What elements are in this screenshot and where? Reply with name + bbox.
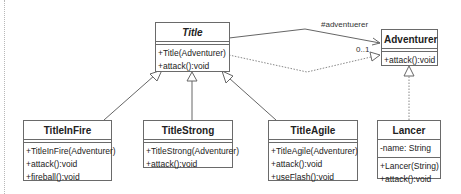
- class-name: Title: [156, 23, 229, 41]
- operation: +TitleAgile(Adventurer): [269, 145, 357, 158]
- association-multiplicity-label: 0..1: [356, 45, 369, 54]
- operation: +TitleInFire(Adventurer): [24, 145, 111, 158]
- realization-line-title: [229, 55, 371, 72]
- operations-section: +Title(Adventurer) +attack():void: [156, 45, 229, 75]
- attributes-section: -name: String: [378, 140, 440, 157]
- operation: +attack():void: [378, 173, 440, 186]
- class-name: TitleAgile: [269, 121, 357, 139]
- association-role-label: #adventuerer: [321, 20, 368, 29]
- operation: +attack():void: [156, 60, 229, 73]
- class-title-in-fire[interactable]: TitleInFire +TitleInFire(Adventurer) +at…: [23, 120, 112, 181]
- operations-section: +TitleStrong(Adventurer) +attack():void: [144, 143, 232, 173]
- class-lancer[interactable]: Lancer -name: String +Lancer(String) +at…: [377, 120, 441, 179]
- operation: +fireball():void: [24, 171, 111, 184]
- operations-section: +TitleInFire(Adventurer) +attack():void …: [24, 143, 111, 186]
- class-title-agile[interactable]: TitleAgile +TitleAgile(Adventurer) +atta…: [268, 120, 358, 181]
- operation: +attack():void: [382, 54, 437, 67]
- operation: +Title(Adventurer): [156, 47, 229, 60]
- attribute: -name: String: [378, 142, 440, 155]
- class-name: Lancer: [378, 121, 440, 139]
- class-adventurer[interactable]: Adventurer +attack():void: [381, 29, 438, 66]
- operation: +attack():void: [24, 158, 111, 171]
- operations-section: +TitleAgile(Adventurer) +attack():void +…: [269, 143, 357, 186]
- operation: +Lancer(String): [378, 160, 440, 173]
- association-line: [229, 29, 380, 43]
- operation: +useFlash():void: [269, 171, 357, 184]
- operations-section: +Lancer(String) +attack():void: [378, 158, 440, 188]
- operation: +attack():void: [269, 158, 357, 171]
- operation: +attack():void: [144, 158, 232, 171]
- class-name: TitleStrong: [144, 121, 232, 139]
- operations-section: +attack():void: [382, 52, 437, 69]
- class-name: TitleInFire: [24, 121, 111, 139]
- hollow-triangle-arrowhead: [370, 52, 380, 61]
- class-name: Adventurer: [382, 30, 437, 48]
- operation: +TitleStrong(Adventurer): [144, 145, 232, 158]
- class-title[interactable]: Title +Title(Adventurer) +attack():void: [155, 22, 230, 72]
- class-title-strong[interactable]: TitleStrong +TitleStrong(Adventurer) +at…: [143, 120, 233, 168]
